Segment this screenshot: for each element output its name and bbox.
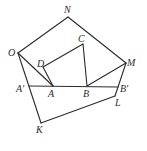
label-L: L <box>114 97 121 108</box>
label-K: K <box>35 124 44 135</box>
segment-d-c <box>43 44 83 67</box>
label-M: M <box>126 57 136 68</box>
label-B-prime: B' <box>120 83 129 94</box>
label-D: D <box>36 58 45 69</box>
segment-c-b <box>83 44 87 86</box>
segment-o-n <box>18 17 68 53</box>
segment-n-m <box>68 17 126 63</box>
label-B: B <box>83 88 89 99</box>
geometry-diagram: N O C M D A' A B B' L K <box>0 0 147 151</box>
label-A-prime: A' <box>15 83 25 94</box>
label-C: C <box>78 33 85 44</box>
segment-a1-b1 <box>29 86 118 87</box>
segment-d-a <box>43 67 53 86</box>
segment-k-l <box>41 96 115 123</box>
label-A: A <box>47 88 55 99</box>
label-O: O <box>8 47 15 58</box>
label-N: N <box>63 4 72 15</box>
